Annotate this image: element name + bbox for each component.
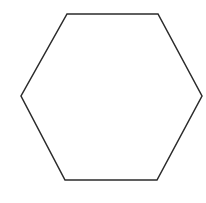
diagram-canvas [0, 0, 206, 203]
hexagon-diagram [0, 0, 206, 203]
hexagon-shape [21, 14, 202, 180]
